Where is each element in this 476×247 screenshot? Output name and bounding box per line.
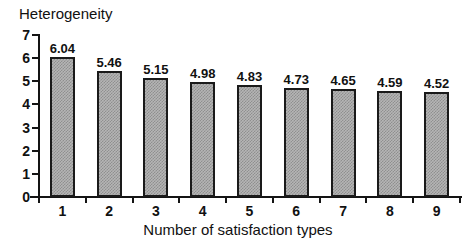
y-tick-mark — [32, 80, 39, 82]
bar-value-label: 4.83 — [237, 70, 262, 84]
x-tick-mark — [132, 198, 134, 203]
bar: 4.59 — [377, 91, 402, 197]
x-tick-label: 8 — [375, 203, 405, 219]
bar-value-label: 4.98 — [190, 67, 215, 81]
bar: 5.15 — [143, 78, 168, 197]
bar: 4.83 — [237, 85, 262, 197]
x-tick-mark — [412, 198, 414, 203]
x-tick-label: 9 — [422, 203, 452, 219]
x-axis-title: Number of satisfaction types — [0, 221, 476, 239]
x-tick-mark — [319, 198, 321, 203]
y-tick-label: 2 — [8, 144, 30, 158]
bar-value-label: 5.46 — [97, 56, 122, 70]
y-tick-mark — [32, 34, 39, 36]
y-tick-label: 1 — [8, 167, 30, 181]
bar-value-label: 4.65 — [330, 74, 355, 88]
x-tick-label: 3 — [141, 203, 171, 219]
x-tick-mark — [178, 198, 180, 203]
bar: 4.98 — [190, 82, 215, 197]
y-tick-mark — [32, 127, 39, 129]
x-tick-mark — [85, 198, 87, 203]
bar-chart: Heterogeneity 01234567 6.045.465.154.984… — [0, 0, 476, 247]
bar: 4.52 — [424, 92, 449, 197]
x-tick-label: 1 — [47, 203, 77, 219]
y-tick-label: 3 — [8, 121, 30, 135]
y-tick-label: 0 — [8, 190, 30, 204]
bar-value-label: 5.15 — [143, 63, 168, 77]
x-tick-mark — [459, 198, 461, 203]
y-tick-mark — [32, 173, 39, 175]
y-tick-mark — [32, 150, 39, 152]
y-tick-label: 4 — [8, 97, 30, 111]
bar-value-label: 4.59 — [377, 76, 402, 90]
x-tick-label: 7 — [328, 203, 358, 219]
x-tick-mark — [365, 198, 367, 203]
bar: 6.04 — [50, 57, 75, 197]
y-axis-ticks: 01234567 — [0, 0, 30, 247]
x-tick-label: 5 — [235, 203, 265, 219]
x-tick-label: 6 — [281, 203, 311, 219]
bar: 4.65 — [331, 89, 356, 197]
bar-value-label: 4.73 — [284, 73, 309, 87]
plot-area: 6.045.465.154.984.834.734.654.594.52 — [38, 35, 460, 197]
y-tick-label: 7 — [8, 28, 30, 42]
x-tick-mark — [225, 198, 227, 203]
bar-value-label: 4.52 — [424, 77, 449, 91]
x-tick-label: 2 — [94, 203, 124, 219]
bar-value-label: 6.04 — [50, 42, 75, 56]
y-tick-mark — [32, 103, 39, 105]
x-tick-label: 4 — [188, 203, 218, 219]
bar: 4.73 — [284, 88, 309, 197]
x-tick-mark — [38, 198, 40, 203]
y-tick-label: 5 — [8, 74, 30, 88]
bar: 5.46 — [97, 71, 122, 197]
x-tick-mark — [272, 198, 274, 203]
y-tick-label: 6 — [8, 51, 30, 65]
y-axis-title: Heterogeneity — [19, 5, 112, 23]
y-tick-mark — [32, 57, 39, 59]
